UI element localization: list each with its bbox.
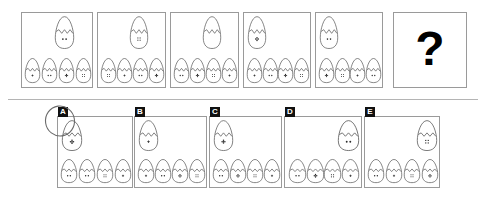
option-panel-a-bottom-egg-3 <box>97 159 113 183</box>
question-panel-3-bottom-egg-1 <box>174 58 189 83</box>
unknown-question-mark: ? <box>394 13 466 87</box>
option-panel-a-bottom-egg-4 <box>115 159 131 183</box>
option-panel-c[interactable] <box>209 116 282 188</box>
question-panel-4-bottom-egg-1 <box>247 58 262 83</box>
option-label-d[interactable]: D <box>285 107 295 117</box>
option-panel-a-bottom-egg-2 <box>79 159 95 183</box>
row-divider <box>8 99 478 100</box>
puzzle-canvas: ? A <box>0 0 486 199</box>
question-panel-2-bottom-egg-3 <box>133 58 148 83</box>
option-panel-d[interactable] <box>284 116 362 188</box>
option-panel-a-bottom-egg-1 <box>61 159 77 183</box>
option-panel-c-top-egg <box>214 120 233 151</box>
question-panel-2-inner <box>98 13 165 87</box>
option-panel-c-bottom-egg-3 <box>247 159 263 183</box>
question-panel-1-inner <box>22 13 92 87</box>
option-panel-e-inner <box>365 117 439 187</box>
question-panel-1 <box>21 12 93 88</box>
option-panel-d-bottom-egg-2 <box>307 159 324 183</box>
question-panel-4-bottom-egg-2 <box>263 58 278 83</box>
question-panel-3-bottom-egg-4 <box>222 58 237 83</box>
option-panel-a[interactable] <box>57 116 133 188</box>
option-panel-e-bottom-egg-3 <box>404 159 420 183</box>
question-panel-6: ? <box>393 12 467 88</box>
question-panel-5-bottom-egg-1 <box>319 58 334 83</box>
option-panel-c-bottom-egg-1 <box>213 159 229 183</box>
option-panel-e-top-egg <box>417 120 437 151</box>
question-panel-6-inner: ? <box>394 13 466 87</box>
option-panel-b-bottom-egg-4 <box>189 159 205 183</box>
question-panel-5-bottom-egg-3 <box>350 58 365 83</box>
question-panel-3-top-egg <box>203 16 221 49</box>
question-panel-3-bottom-egg-2 <box>190 58 205 83</box>
question-panel-2-bottom-egg-4 <box>149 58 164 83</box>
question-panel-2-top-egg <box>130 16 148 49</box>
question-panel-4 <box>243 12 311 88</box>
option-panel-b-bottom-egg-2 <box>155 159 171 183</box>
option-panel-e-bottom-egg-2 <box>386 159 402 183</box>
question-panel-2-bottom-egg-1 <box>101 58 116 83</box>
question-panel-4-top-egg <box>248 16 266 49</box>
question-panel-5-inner <box>316 13 382 87</box>
option-panel-a-top-egg <box>62 120 82 151</box>
option-panel-d-bottom-egg-1 <box>289 159 306 183</box>
option-panel-b[interactable] <box>134 116 207 188</box>
option-panel-b-bottom-egg-3 <box>172 159 188 183</box>
option-label-c[interactable]: C <box>210 107 220 117</box>
option-panel-e[interactable] <box>364 116 440 188</box>
option-panel-d-bottom-egg-3 <box>324 159 341 183</box>
option-panel-e-bottom-egg-1 <box>368 159 384 183</box>
option-panel-b-top-egg <box>139 120 158 151</box>
option-label-a[interactable]: A <box>58 107 68 117</box>
question-panel-1-bottom-egg-3 <box>59 58 74 83</box>
option-label-e[interactable]: E <box>365 107 375 117</box>
option-panel-e-bottom-egg-4 <box>422 159 438 183</box>
question-panel-1-bottom-egg-2 <box>42 58 57 83</box>
question-panel-5 <box>315 12 383 88</box>
question-panel-4-inner <box>244 13 310 87</box>
question-panel-3-inner <box>171 13 238 87</box>
option-panel-d-bottom-egg-4 <box>342 159 359 183</box>
question-panel-2 <box>97 12 166 88</box>
question-panel-2-bottom-egg-2 <box>117 58 132 83</box>
question-panel-3-bottom-egg-3 <box>206 58 221 83</box>
option-panel-a-inner <box>58 117 132 187</box>
question-panel-1-bottom-egg-1 <box>25 58 40 83</box>
question-panel-3 <box>170 12 239 88</box>
question-panel-5-bottom-egg-2 <box>335 58 350 83</box>
option-panel-b-inner <box>135 117 206 187</box>
question-panel-5-top-egg <box>320 16 338 49</box>
question-panel-1-top-egg <box>55 16 74 49</box>
option-label-b[interactable]: B <box>135 107 145 117</box>
question-panel-1-bottom-egg-4 <box>76 58 91 83</box>
question-panel-5-bottom-egg-4 <box>366 58 381 83</box>
option-panel-d-top-egg <box>338 120 359 151</box>
option-panel-c-bottom-egg-4 <box>264 159 280 183</box>
option-panel-c-inner <box>210 117 281 187</box>
question-panel-4-bottom-egg-4 <box>294 58 309 83</box>
option-panel-d-inner <box>285 117 361 187</box>
question-panel-4-bottom-egg-3 <box>278 58 293 83</box>
option-panel-c-bottom-egg-2 <box>230 159 246 183</box>
option-panel-b-bottom-egg-1 <box>138 159 154 183</box>
